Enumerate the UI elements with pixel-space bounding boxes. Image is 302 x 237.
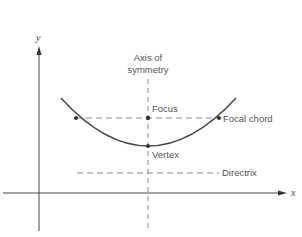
axis-of-symmetry-label-line2: symmetry: [127, 64, 168, 75]
focal-chord-right-point: [217, 116, 221, 120]
axis-of-symmetry-label-line1: Axis of: [134, 52, 163, 63]
parabola-diagram: y x Axis of symmetry Focus Focal chord V…: [0, 0, 302, 237]
y-axis-label: y: [35, 32, 41, 43]
focus-point: [146, 116, 150, 120]
focal-chord-left-point: [74, 116, 78, 120]
x-axis-arrow-icon: [278, 191, 287, 196]
vertex-label: Vertex: [152, 149, 179, 160]
x-axis: x: [3, 187, 296, 198]
directrix-label: Directrix: [222, 167, 257, 178]
focus-label: Focus: [152, 103, 178, 114]
vertex-point: [146, 144, 150, 148]
parabola-curve: [61, 98, 236, 146]
x-axis-label: x: [290, 187, 296, 198]
y-axis-arrow-icon: [37, 46, 42, 55]
y-axis: y: [35, 32, 42, 231]
focal-chord-label: Focal chord: [223, 113, 273, 124]
